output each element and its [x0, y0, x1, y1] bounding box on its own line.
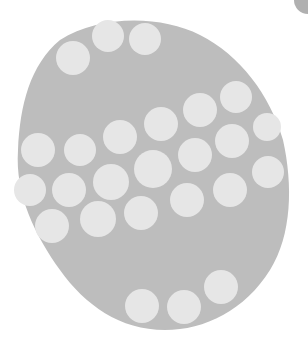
dot: [213, 173, 247, 207]
dot: [252, 156, 284, 188]
dot: [14, 174, 46, 206]
dot: [215, 124, 249, 158]
dot: [92, 20, 124, 52]
dot: [129, 23, 161, 55]
dot: [144, 107, 178, 141]
dot: [52, 173, 86, 207]
dot: [103, 120, 137, 154]
dot: [183, 93, 217, 127]
dot: [134, 150, 172, 188]
egg-graphic: [0, 0, 308, 350]
dot: [125, 289, 159, 323]
dot: [170, 183, 204, 217]
dot: [124, 196, 158, 230]
dot: [178, 138, 212, 172]
dot: [253, 113, 281, 141]
dot: [56, 41, 90, 75]
dot: [93, 164, 129, 200]
dot: [204, 270, 238, 304]
egg-illustration: [0, 0, 308, 350]
dot: [64, 134, 96, 166]
dot: [21, 133, 55, 167]
dot: [80, 201, 116, 237]
dot: [35, 209, 69, 243]
dot: [220, 81, 252, 113]
dot: [167, 290, 201, 324]
